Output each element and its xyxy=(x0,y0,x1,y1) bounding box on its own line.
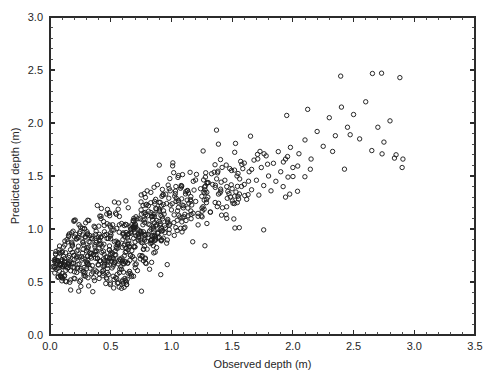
x-tick-label: 0.0 xyxy=(42,340,57,352)
y-tick-label: 0.5 xyxy=(28,276,43,288)
x-tick-label: 3.0 xyxy=(407,340,422,352)
x-axis-label: Observed depth (m) xyxy=(214,358,312,370)
x-tick-label: 1.0 xyxy=(164,340,179,352)
y-tick-label: 1.0 xyxy=(28,223,43,235)
scatter-plot-figure: 0.00.51.01.52.02.53.03.50.00.51.01.52.02… xyxy=(0,0,498,386)
y-tick-label: 3.0 xyxy=(28,11,43,23)
x-tick-label: 1.5 xyxy=(224,340,239,352)
x-tick-label: 2.0 xyxy=(285,340,300,352)
y-tick-label: 1.5 xyxy=(28,170,43,182)
y-tick-label: 0.0 xyxy=(28,329,43,341)
x-tick-label: 3.5 xyxy=(467,340,482,352)
x-tick-label: 2.5 xyxy=(346,340,361,352)
y-tick-label: 2.0 xyxy=(28,117,43,129)
y-axis-label: Predicted depth (m) xyxy=(9,128,21,225)
x-tick-label: 0.5 xyxy=(103,340,118,352)
y-tick-label: 2.5 xyxy=(28,64,43,76)
